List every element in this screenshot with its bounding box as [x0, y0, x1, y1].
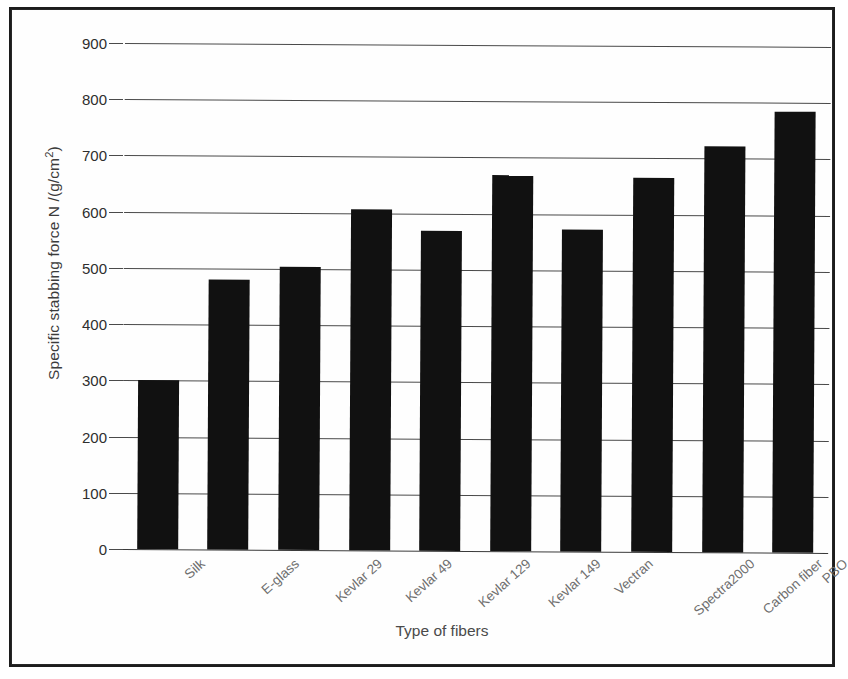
y-tick-label: 400 — [82, 316, 107, 333]
bar — [490, 175, 533, 551]
y-tick-mark — [109, 212, 123, 213]
x-axis-title-text: Type of fibers — [395, 622, 488, 639]
bar — [137, 380, 179, 549]
x-axis-category-label: Kevlar 129 — [475, 556, 533, 610]
y-tick-label: 100 — [82, 484, 107, 501]
bar — [772, 111, 815, 553]
y-tick-mark — [109, 380, 123, 381]
y-axis-title-close: ) — [45, 146, 62, 151]
bar — [349, 210, 392, 551]
x-axis-category-label: Kevlar 49 — [403, 556, 455, 605]
y-tick-mark — [109, 155, 123, 156]
x-axis-category-label: Carbon fiber — [760, 556, 825, 617]
y-tick-label: 300 — [82, 372, 107, 389]
x-axis-category-label: Spectra2000 — [690, 556, 757, 618]
bar — [702, 146, 745, 552]
x-axis-category-label: PBO — [819, 556, 848, 586]
y-tick-mark — [109, 43, 123, 44]
x-axis-category-label: Vectran — [612, 556, 656, 598]
y-tick-mark — [109, 324, 123, 325]
y-axis-title-superscript: 2 — [43, 151, 55, 157]
y-tick-mark — [109, 549, 123, 550]
bar — [631, 178, 674, 552]
y-tick-label: 900 — [82, 35, 107, 52]
y-axis-title: Specific stabbing force N /(g/cm2) — [42, 10, 64, 516]
bar — [561, 229, 604, 551]
chart-page: Specific stabbing force N /(g/cm2) 90080… — [0, 0, 848, 679]
x-axis-category-label: Kevlar 149 — [546, 556, 604, 610]
figure-frame: Specific stabbing force N /(g/cm2) 90080… — [9, 7, 835, 667]
plot-area: 9008007006005004003002001000 — [125, 43, 831, 549]
plot-inner — [122, 43, 831, 553]
y-tick-label: 800 — [82, 91, 107, 108]
y-tick-mark — [109, 493, 123, 494]
y-tick-mark — [109, 99, 123, 100]
bar — [419, 230, 462, 551]
gridline — [125, 43, 831, 48]
y-tick-mark — [109, 268, 123, 269]
gridlines — [125, 43, 831, 47]
y-tick-label: 0 — [99, 541, 107, 558]
bar — [278, 267, 321, 550]
y-tick-label: 600 — [82, 203, 107, 220]
y-tick-mark — [109, 437, 123, 438]
bar — [208, 279, 251, 550]
y-tick-label: 700 — [82, 147, 107, 164]
y-axis-title-text: Specific stabbing force N /(g/cm — [45, 158, 62, 380]
x-axis-category-label: Kevlar 29 — [332, 556, 384, 605]
y-tick-label: 200 — [82, 428, 107, 445]
y-tick-label: 500 — [82, 259, 107, 276]
gridline — [125, 99, 831, 104]
x-axis-title: Type of fibers — [12, 622, 838, 640]
x-axis-category-label: E-glass — [258, 556, 301, 597]
x-axis-category-label: Silk — [182, 556, 208, 582]
